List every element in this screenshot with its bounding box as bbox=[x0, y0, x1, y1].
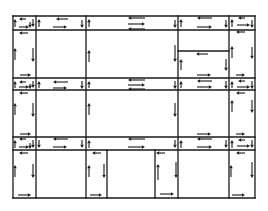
flow-arrow-icon bbox=[102, 164, 106, 178]
flow-arrow-icon bbox=[13, 165, 17, 177]
flow-arrow-icon bbox=[37, 81, 41, 88]
flow-arrow-icon bbox=[13, 140, 17, 148]
flow-arrow-icon bbox=[80, 140, 84, 148]
flow-arrow-icon bbox=[229, 165, 233, 177]
flow-arrow-icon bbox=[53, 25, 67, 29]
flow-arrow-icon bbox=[20, 73, 31, 77]
flow-arrow-icon bbox=[237, 23, 250, 27]
flow-arrow-icon bbox=[197, 85, 212, 89]
flow-arrow-icon bbox=[19, 31, 28, 35]
flow-arrow-icon bbox=[224, 20, 228, 28]
flow-arrow-icon bbox=[250, 162, 254, 178]
flow-arrow-icon bbox=[173, 45, 177, 62]
flow-arrow-icon bbox=[238, 79, 245, 83]
flow-arrow-icon bbox=[87, 19, 91, 27]
flow-arrow-icon bbox=[230, 140, 234, 148]
flow-arrow-icon bbox=[238, 138, 245, 142]
flow-arrow-icon bbox=[237, 144, 250, 148]
flow-arrow-icon bbox=[53, 80, 68, 84]
flow-arrow-icon bbox=[31, 48, 35, 62]
flow-arrow-icon bbox=[236, 132, 245, 136]
flow-arrow-icon bbox=[250, 20, 254, 28]
flow-arrow-icon bbox=[179, 19, 183, 27]
flow-arrow-icon bbox=[28, 84, 32, 89]
flow-arrow-icon bbox=[179, 81, 183, 88]
flow-arrow-icon bbox=[224, 81, 228, 89]
circulation-diagram bbox=[0, 0, 268, 211]
flow-arrow-icon bbox=[238, 16, 245, 20]
flow-arrow-icon bbox=[87, 50, 91, 62]
flow-arrow-icon bbox=[19, 151, 28, 155]
flow-arrow-icon bbox=[179, 59, 183, 70]
flow-arrow-icon bbox=[92, 151, 101, 155]
flow-arrow-icon bbox=[19, 25, 29, 29]
flow-arrow-icon bbox=[128, 145, 145, 149]
flow-arrow-icon bbox=[236, 151, 245, 155]
flow-arrow-icon bbox=[224, 59, 228, 71]
flow-arrow-icon bbox=[53, 137, 68, 141]
flow-arrow-icon bbox=[179, 140, 183, 148]
flow-arrow-icon bbox=[31, 164, 35, 178]
flow-arrow-icon bbox=[230, 46, 234, 58]
flow-arrow-icon bbox=[173, 81, 177, 89]
flow-arrow-icon bbox=[250, 81, 254, 89]
flow-arrow-icon bbox=[128, 22, 145, 26]
flow-arrow-icon bbox=[20, 132, 31, 136]
flow-arrow-icon bbox=[128, 137, 145, 141]
flow-arrow-icon bbox=[13, 19, 17, 27]
flow-arrow-icon bbox=[197, 145, 212, 149]
flow-arrow-icon bbox=[230, 19, 234, 27]
flow-arrows bbox=[13, 16, 254, 197]
flow-arrow-icon bbox=[56, 17, 68, 21]
flow-arrow-icon bbox=[196, 52, 208, 56]
flow-arrow-icon bbox=[197, 79, 212, 83]
flow-arrow-icon bbox=[173, 103, 177, 117]
flow-arrow-icon bbox=[31, 140, 35, 148]
flow-arrow-icon bbox=[250, 140, 254, 148]
flow-arrow-icon bbox=[19, 145, 29, 149]
flow-arrow-icon bbox=[197, 16, 212, 20]
flow-arrow-icon bbox=[250, 100, 254, 113]
flow-arrow-icon bbox=[197, 137, 212, 141]
flow-arrow-icon bbox=[87, 165, 91, 177]
flow-arrow-icon bbox=[31, 19, 35, 27]
flow-arrow-icon bbox=[197, 25, 212, 29]
flow-arrow-icon bbox=[31, 81, 35, 88]
flow-arrow-icon bbox=[224, 140, 228, 148]
flow-arrow-icon bbox=[31, 103, 35, 117]
flow-arrow-icon bbox=[13, 103, 17, 115]
flow-arrow-icon bbox=[173, 140, 177, 148]
grid-walls bbox=[13, 16, 255, 198]
flow-arrow-icon bbox=[250, 47, 254, 59]
flow-arrow-icon bbox=[236, 73, 245, 77]
flow-arrow-icon bbox=[236, 30, 245, 34]
flow-arrow-icon bbox=[197, 73, 211, 77]
flow-arrow-icon bbox=[19, 85, 29, 89]
flow-arrow-icon bbox=[53, 86, 67, 90]
flow-arrow-icon bbox=[19, 91, 28, 95]
flow-arrow-icon bbox=[197, 132, 211, 136]
flow-arrow-icon bbox=[160, 192, 174, 196]
flow-arrow-icon bbox=[13, 81, 17, 88]
flow-arrow-icon bbox=[37, 140, 41, 148]
flow-arrow-icon bbox=[53, 145, 67, 149]
flow-arrow-icon bbox=[13, 48, 17, 60]
flow-arrow-icon bbox=[90, 193, 102, 197]
flow-arrow-icon bbox=[87, 103, 91, 115]
flow-arrow-icon bbox=[19, 17, 26, 21]
flow-arrow-icon bbox=[37, 19, 41, 27]
flow-arrow-icon bbox=[28, 143, 32, 149]
flow-arrow-icon bbox=[173, 20, 177, 28]
flow-arrow-icon bbox=[87, 140, 91, 148]
flow-arrow-icon bbox=[80, 81, 84, 89]
flow-arrow-icon bbox=[156, 151, 165, 155]
flow-arrow-icon bbox=[230, 81, 234, 88]
flow-arrow-icon bbox=[232, 193, 245, 197]
flow-arrow-icon bbox=[237, 85, 250, 89]
flow-arrow-icon bbox=[19, 80, 26, 84]
flow-arrow-icon bbox=[18, 193, 31, 197]
flow-arrow-icon bbox=[128, 16, 145, 20]
flow-arrow-icon bbox=[230, 100, 234, 112]
flow-arrow-icon bbox=[128, 83, 145, 87]
flow-arrow-icon bbox=[19, 137, 26, 141]
